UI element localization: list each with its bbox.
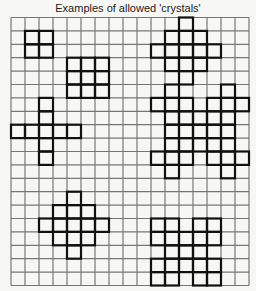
crystal-cell — [193, 58, 207, 71]
crystal-cell — [207, 44, 221, 57]
crystal-cell — [53, 125, 67, 138]
crystal-cell — [25, 31, 39, 44]
crystal-cell — [25, 44, 39, 57]
crystal-cell — [193, 272, 207, 285]
crystal-cell — [151, 272, 165, 285]
crystal-square-3x3 — [67, 58, 109, 98]
crystal-cell — [81, 58, 95, 71]
crystal-cell — [179, 18, 193, 31]
crystal-cell — [235, 98, 249, 111]
crystal-cell — [165, 98, 179, 111]
crystal-cell — [39, 152, 53, 165]
crystal-cell — [193, 111, 207, 124]
crystal-cell — [53, 232, 67, 245]
crystal-cell — [53, 205, 67, 218]
crystal-cell — [67, 219, 81, 232]
crystal-cell — [39, 44, 53, 57]
crystal-cell — [221, 111, 235, 124]
crystal-cell — [165, 219, 179, 232]
crystal-cell — [95, 58, 109, 71]
crystal-cell — [179, 232, 193, 245]
crystal-cell — [221, 85, 235, 98]
crystal-cell — [151, 232, 165, 245]
crystal-cell — [67, 192, 81, 205]
crystal-cell — [235, 152, 249, 165]
crystal-cell — [207, 125, 221, 138]
crystal-cell — [179, 58, 193, 71]
crystal-cell — [39, 125, 53, 138]
crystal-cell — [193, 245, 207, 258]
crystal-cell — [151, 152, 165, 165]
crystal-cell — [67, 232, 81, 245]
crystal-cell — [193, 259, 207, 272]
crystal-cell — [221, 98, 235, 111]
crystal-cell — [165, 272, 179, 285]
crystal-diamond-bottom-left — [39, 192, 109, 259]
crystal-cell — [95, 71, 109, 84]
crystal-cell — [95, 219, 109, 232]
crystal-cell — [193, 219, 207, 232]
crystal-cell — [193, 232, 207, 245]
crystal-cell — [151, 219, 165, 232]
crystal-cell — [165, 85, 179, 98]
crystal-cell — [221, 165, 235, 178]
crystal-cell — [81, 71, 95, 84]
crystal-cell — [207, 232, 221, 245]
crystal-cell — [207, 111, 221, 124]
crystal-cell — [193, 138, 207, 151]
crystal-cell — [193, 44, 207, 57]
crystal-cell — [221, 152, 235, 165]
crystal-double-cluster — [151, 85, 249, 179]
crystal-cell — [179, 31, 193, 44]
crystal-cell — [221, 138, 235, 151]
crystal-cell — [67, 58, 81, 71]
crystal-cell — [165, 245, 179, 258]
crystal-cell — [151, 44, 165, 57]
crystal-cell — [39, 111, 53, 124]
crystal-cell — [53, 219, 67, 232]
crystal-cell — [165, 165, 179, 178]
crystal-cell — [67, 85, 81, 98]
crystal-cell — [39, 138, 53, 151]
crystal-cell — [67, 205, 81, 218]
crystal-cell — [179, 98, 193, 111]
crystal-cell — [165, 152, 179, 165]
crystal-cell — [165, 232, 179, 245]
crystal-cell — [179, 152, 193, 165]
crystal-cell — [39, 31, 53, 44]
crystal-square-2x2 — [25, 31, 53, 58]
crystal-cell — [207, 138, 221, 151]
crystal-grid — [0, 0, 256, 291]
crystal-cell — [165, 44, 179, 57]
crystal-cell — [165, 259, 179, 272]
crystal-lattice-bottom-right — [151, 219, 221, 286]
crystal-cell — [207, 272, 221, 285]
crystal-cell — [151, 259, 165, 272]
crystal-cell — [25, 125, 39, 138]
crystal-cell — [81, 219, 95, 232]
crystal-cell — [207, 98, 221, 111]
crystal-cell — [151, 98, 165, 111]
crystal-cell — [165, 125, 179, 138]
crystal-cell — [81, 85, 95, 98]
crystal-cell — [207, 259, 221, 272]
crystal-cell — [179, 71, 193, 84]
crystal-cell — [165, 58, 179, 71]
crystal-cell — [67, 245, 81, 258]
crystal-cell — [165, 31, 179, 44]
crystal-cell — [39, 98, 53, 111]
crystal-cross — [11, 98, 81, 165]
crystal-cell — [207, 219, 221, 232]
crystal-cell — [193, 31, 207, 44]
crystal-cell — [11, 125, 25, 138]
crystal-cell — [95, 85, 109, 98]
crystal-cell — [179, 125, 193, 138]
crystal-cell — [207, 152, 221, 165]
crystal-cell — [67, 71, 81, 84]
crystal-cell — [165, 138, 179, 151]
crystal-cell — [179, 245, 193, 258]
crystal-cell — [67, 125, 81, 138]
crystal-cell — [179, 111, 193, 124]
crystal-cell — [81, 232, 95, 245]
crystal-cell — [165, 111, 179, 124]
